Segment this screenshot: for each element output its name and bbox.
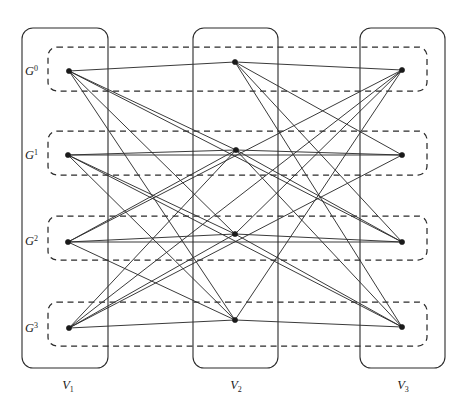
edge-v2-g0-to-v3-g0	[235, 62, 402, 70]
edge-v2-g3-to-v3-g0	[235, 70, 402, 320]
node-v2-g2	[232, 231, 237, 236]
edge-v1-g1-to-v2-g1	[68, 150, 236, 155]
column-label-subscript: 3	[405, 385, 409, 394]
node-v3-g1	[399, 152, 404, 157]
edge-v2-g1-to-v3-g3	[236, 150, 402, 327]
edge-v1-g1-to-v2-g3	[68, 155, 235, 320]
layer-box-g3	[48, 302, 427, 346]
layer-label-g0: G0	[25, 64, 38, 79]
node-v3-g2	[399, 239, 404, 244]
layer-label-g2: G2	[25, 234, 38, 249]
edge-v2-g1-to-v3-g1	[236, 150, 402, 155]
column-label-subscript: 1	[70, 385, 74, 394]
edge-v1-g3-to-v3-g0	[69, 70, 402, 328]
node-v2-g3	[232, 317, 237, 322]
node-v1-g2	[65, 239, 70, 244]
edges-group	[68, 62, 402, 328]
edge-v2-g2-to-v3-g0	[235, 70, 402, 234]
column-label-v1: V1	[62, 378, 74, 394]
edge-v1-g2-to-v2-g2	[68, 234, 235, 242]
edge-v1-g0-to-v2-g1	[69, 71, 236, 150]
labels-group: G0G1G2G3V1V2V3	[25, 64, 409, 395]
node-v2-g0	[232, 59, 237, 64]
edge-v1-g3-to-v2-g1	[69, 150, 236, 328]
edge-v2-g2-to-v3-g3	[235, 234, 402, 327]
column-label-subscript: 2	[238, 385, 242, 394]
layer-label-superscript: 1	[34, 148, 38, 157]
column-box-v3	[360, 28, 445, 368]
column-box-v1	[22, 28, 108, 368]
edge-v1-g3-to-v2-g2	[69, 234, 235, 328]
layer-label-g1: G1	[25, 148, 38, 163]
layer-label-base: G	[25, 148, 34, 162]
layer-label-superscript: 3	[34, 321, 38, 330]
layer-label-g3: G3	[25, 321, 38, 336]
node-v2-g1	[233, 147, 238, 152]
edge-v2-g0-to-v3-g1	[235, 62, 402, 155]
node-v1-g1	[65, 152, 70, 157]
graph-figure: G0G1G2G3V1V2V3	[0, 0, 471, 414]
edge-v2-g2-to-v3-g2	[235, 234, 402, 242]
nodes-group	[65, 59, 404, 330]
node-v3-g3	[399, 324, 404, 329]
node-v1-g3	[66, 325, 71, 330]
graph-canvas: G0G1G2G3V1V2V3	[0, 0, 471, 414]
layer-label-base: G	[25, 321, 34, 335]
edge-v1-g1-to-v2-g2	[68, 155, 235, 234]
layer-boxes-group	[48, 47, 427, 346]
node-v1-g0	[66, 68, 71, 73]
node-v3-g0	[399, 67, 404, 72]
layer-label-superscript: 0	[34, 64, 38, 73]
edge-v2-g3-to-v3-g3	[235, 320, 402, 327]
column-label-v2: V2	[230, 378, 242, 394]
edge-v1-g0-to-v2-g0	[69, 62, 235, 71]
layer-label-base: G	[25, 64, 34, 78]
edge-v1-g3-to-v2-g3	[69, 320, 235, 328]
layer-label-base: G	[25, 234, 34, 248]
layer-label-superscript: 2	[34, 234, 38, 243]
column-label-v3: V3	[397, 378, 409, 394]
